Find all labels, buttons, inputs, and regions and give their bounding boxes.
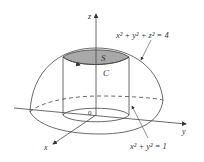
x-axis-label: x: [43, 143, 48, 152]
curve-c-arrow: [76, 64, 80, 65]
curve-label: C: [103, 68, 110, 78]
sphere-base-back: [30, 96, 163, 112]
sphere-base-front: [30, 100, 163, 134]
cylinder-equation: x² + y² = 1: [129, 141, 167, 151]
y-axis-label: y: [181, 127, 186, 136]
cylinder-leader: [132, 106, 148, 138]
sphere-leader: [141, 40, 151, 60]
surface-label: S: [101, 53, 106, 63]
diagram-canvas: z y x 0 S C x² + y² + z² = 4 x² + y² = 1: [0, 0, 204, 162]
sphere-equation: x² + y² + z² = 4: [115, 30, 169, 40]
origin-label: 0: [88, 109, 92, 117]
z-axis-label: z: [87, 12, 92, 21]
